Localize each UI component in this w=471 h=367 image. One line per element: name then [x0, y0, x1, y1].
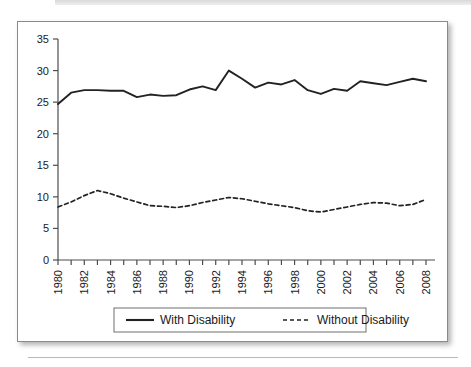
y-axis: 05101520253035 — [37, 33, 58, 266]
line-chart: 05101520253035 1980198219841986198819901… — [18, 22, 447, 341]
x-tick-label: 1996 — [262, 270, 274, 294]
bottom-rule — [28, 357, 458, 358]
x-axis: 1980198219841986198819901992199419961998… — [52, 260, 435, 294]
series-lines — [58, 71, 426, 212]
x-tick-label: 2000 — [315, 270, 327, 294]
y-tick-label: 35 — [37, 33, 49, 45]
chart-legend: With DisabilityWithout Disability — [114, 308, 409, 332]
y-tick-label: 15 — [37, 159, 49, 171]
x-tick-label: 2008 — [420, 270, 432, 294]
x-tick-label: 1980 — [52, 270, 64, 294]
x-tick-label: 2002 — [341, 270, 353, 294]
x-tick-label: 1990 — [183, 270, 195, 294]
x-tick-label: 1998 — [289, 270, 301, 294]
x-tick-label: 1994 — [236, 270, 248, 294]
y-tick-label: 10 — [37, 191, 49, 203]
x-tick-label: 2004 — [367, 270, 379, 294]
x-tick-label: 1986 — [131, 270, 143, 294]
y-tick-label: 20 — [37, 128, 49, 140]
x-tick-label: 2006 — [394, 270, 406, 294]
legend-label-1: With Disability — [160, 313, 235, 327]
legend-label-2: Without Disability — [317, 313, 409, 327]
series-line-2 — [58, 191, 426, 212]
x-tick-label: 1988 — [157, 270, 169, 294]
x-tick-label: 1992 — [210, 270, 222, 294]
y-tick-label: 5 — [43, 222, 49, 234]
y-tick-label: 25 — [37, 96, 49, 108]
series-line-1 — [58, 71, 426, 104]
y-tick-label: 30 — [37, 65, 49, 77]
y-tick-label: 0 — [43, 254, 49, 266]
figure-frame: 05101520253035 1980198219841986198819901… — [17, 21, 448, 342]
x-tick-label: 1982 — [78, 270, 90, 294]
x-tick-label: 1984 — [105, 270, 117, 294]
top-decorative-band — [55, 0, 471, 5]
